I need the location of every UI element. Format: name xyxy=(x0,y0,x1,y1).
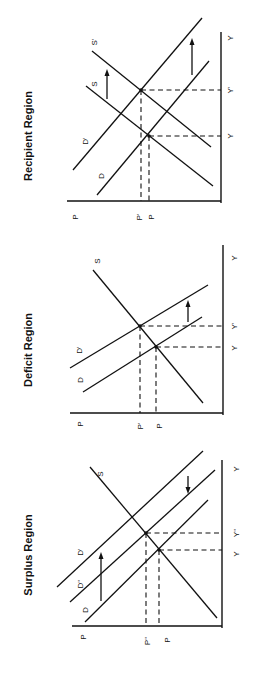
recipient-region-panel: Recipient Region S' S D' D P P' xyxy=(22,18,235,220)
deficit-p-base-label: P xyxy=(155,423,164,428)
deficit-y-prime-label: Y' xyxy=(230,322,239,329)
surplus-equilibrium-initial xyxy=(157,548,161,552)
deficit-demand-shift-arrow-icon xyxy=(186,300,191,322)
recipient-supply-shift-arrow-icon xyxy=(105,69,110,99)
recipient-s-prime-curve xyxy=(92,51,211,147)
surplus-y-axis-label: Y xyxy=(232,466,241,472)
surplus-demand-shift-down-arrow-icon xyxy=(186,476,191,494)
surplus-d-prime-curve xyxy=(57,451,203,587)
surplus-demand-shift-up-arrow-icon xyxy=(99,552,104,601)
recipient-equilibrium-initial xyxy=(147,134,151,138)
deficit-s-curve xyxy=(93,270,203,403)
surplus-y-double-prime-label: Y'' xyxy=(232,528,241,537)
three-region-supply-demand-diagram: Recipient Region S' S D' D P P' xyxy=(0,0,253,680)
recipient-s-prime-label: S' xyxy=(90,38,99,45)
surplus-p-double-prime-label: P'' xyxy=(143,636,152,645)
deficit-y-axis-label: Y xyxy=(230,255,239,261)
recipient-y-prime-label: Y' xyxy=(226,86,235,93)
surplus-p-axis-label: P xyxy=(79,634,88,639)
surplus-d-double-prime-label: D'' xyxy=(76,579,85,588)
deficit-equilibrium-new xyxy=(138,324,142,328)
recipient-y-axis-label: Y xyxy=(226,35,235,41)
deficit-s-label: S xyxy=(93,258,102,263)
surplus-d-prime-label: D' xyxy=(76,548,85,556)
surplus-region-title: Surplus Region xyxy=(22,514,34,596)
recipient-d-label: D xyxy=(97,173,106,179)
surplus-equilibrium-new xyxy=(144,531,148,535)
surplus-s-label: S xyxy=(96,471,105,476)
deficit-p-axis-label: P xyxy=(76,421,85,426)
recipient-equilibrium-new xyxy=(139,88,143,92)
deficit-d-prime-label: D' xyxy=(75,346,84,354)
recipient-d-prime-label: D' xyxy=(81,137,90,145)
deficit-equilibrium-initial xyxy=(154,345,158,349)
deficit-d-label: D xyxy=(76,377,85,383)
deficit-y-base-label: Y xyxy=(230,345,239,351)
surplus-d-label: D xyxy=(81,607,90,613)
recipient-d-curve xyxy=(97,61,209,195)
surplus-region-panel: Surplus Region S D' D'' D P P'' P Y Y'' … xyxy=(22,451,241,645)
deficit-p-prime-label: P' xyxy=(136,422,145,429)
recipient-s-label: S xyxy=(90,81,99,86)
surplus-d-double-prime-curve xyxy=(70,470,215,602)
recipient-y-base-label: Y xyxy=(226,133,235,139)
surplus-y-base-label: Y xyxy=(232,551,241,557)
recipient-p-axis-label: P xyxy=(71,214,80,219)
recipient-p-base-label: P xyxy=(147,214,156,219)
recipient-demand-shift-arrow-icon xyxy=(190,38,195,75)
recipient-p-prime-label: P' xyxy=(135,213,144,220)
recipient-region-title: Recipient Region xyxy=(22,91,34,181)
surplus-p-base-label: P xyxy=(163,637,172,642)
deficit-region-title: Deficit Region xyxy=(22,313,34,387)
surplus-s-curve xyxy=(90,467,217,618)
deficit-region-panel: Deficit Region S D' D P P' P Y Y' Y xyxy=(22,245,239,429)
